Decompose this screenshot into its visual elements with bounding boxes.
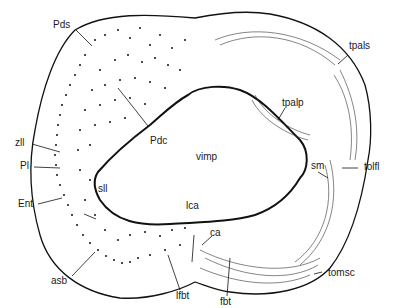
label-lfbt: lfbt xyxy=(176,291,189,301)
label-zll: zll xyxy=(15,138,24,148)
label-pdc: Pdc xyxy=(150,136,167,146)
label-sm: sm xyxy=(311,161,324,171)
label-pds: Pds xyxy=(53,20,70,30)
label-lca: lca xyxy=(186,201,199,211)
label-asb: asb xyxy=(51,276,67,286)
label-tomsc: tomsc xyxy=(328,268,355,278)
label-ca: ca xyxy=(210,228,221,238)
label-sll: sll xyxy=(98,184,107,194)
label-pl: Pl xyxy=(20,161,29,171)
label-fbt: fbt xyxy=(220,297,231,307)
label-tolfl: tolfl xyxy=(364,162,380,172)
label-tpals: tpals xyxy=(349,41,370,51)
fiber-tracts xyxy=(200,32,357,283)
label-vimp: vimp xyxy=(196,152,217,162)
label-tpalp: tpalp xyxy=(282,98,304,108)
label-ent: Ent xyxy=(18,199,33,209)
